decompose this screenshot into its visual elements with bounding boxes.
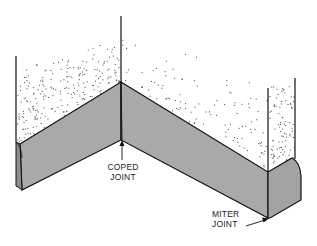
miter-label-line-2: JOINT (212, 219, 252, 229)
baseboard-diagram (0, 0, 317, 246)
coped-label-line-2: JOINT (103, 172, 143, 182)
miter-joint-label: MITER JOINT (212, 209, 252, 229)
coped-joint-arrow (120, 140, 125, 160)
coped-label-line-1: COPED (103, 162, 143, 172)
right-baseboard-return (268, 158, 301, 218)
coped-joint-label: COPED JOINT (103, 162, 143, 182)
miter-label-line-1: MITER (212, 209, 252, 219)
right-baseboard-face (121, 82, 268, 218)
